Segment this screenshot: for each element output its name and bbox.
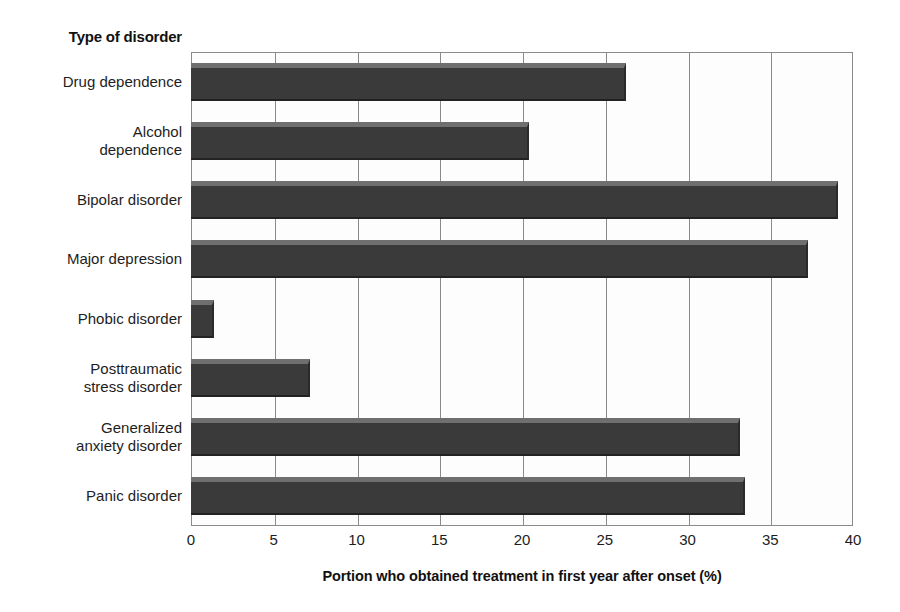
x-tick-label: 15: [419, 531, 459, 548]
category-label-line: dependence: [0, 141, 182, 159]
bar: [191, 240, 808, 278]
bar: [191, 359, 310, 397]
bar-chart: Type of disorder Drug dependenceAlcohold…: [0, 0, 900, 612]
category-label-line: Alcohol: [0, 123, 182, 141]
bar-series: [191, 52, 853, 526]
y-axis-title: Type of disorder: [0, 28, 182, 45]
bar: [191, 63, 626, 101]
category-label: Posttraumaticstress disorder: [0, 360, 182, 396]
category-label-line: Bipolar disorder: [0, 191, 182, 209]
category-label: Panic disorder: [0, 487, 182, 505]
category-label: Drug dependence: [0, 73, 182, 91]
category-label-line: Generalized: [0, 419, 182, 437]
category-label-line: stress disorder: [0, 378, 182, 396]
category-label: Bipolar disorder: [0, 191, 182, 209]
category-label-line: Phobic disorder: [0, 310, 182, 328]
x-tick-label: 25: [585, 531, 625, 548]
x-tick-label: 35: [750, 531, 790, 548]
x-tick-label: 40: [833, 531, 873, 548]
x-tick-label: 20: [502, 531, 542, 548]
category-label-line: Panic disorder: [0, 487, 182, 505]
category-label-line: Posttraumatic: [0, 360, 182, 378]
bar: [191, 477, 745, 515]
bar: [191, 181, 838, 219]
x-tick-label: 10: [337, 531, 377, 548]
category-label: Phobic disorder: [0, 310, 182, 328]
x-tick-label: 5: [254, 531, 294, 548]
category-label: Generalizedanxiety disorder: [0, 419, 182, 455]
category-label: Major depression: [0, 250, 182, 268]
bar: [191, 418, 740, 456]
bar: [191, 300, 214, 338]
category-label-line: anxiety disorder: [0, 437, 182, 455]
bar: [191, 122, 529, 160]
x-tick-label: 30: [668, 531, 708, 548]
x-axis-title: Portion who obtained treatment in first …: [191, 568, 853, 584]
category-label-line: Major depression: [0, 250, 182, 268]
x-tick-label: 0: [171, 531, 211, 548]
category-label: Alcoholdependence: [0, 123, 182, 159]
category-label-line: Drug dependence: [0, 73, 182, 91]
